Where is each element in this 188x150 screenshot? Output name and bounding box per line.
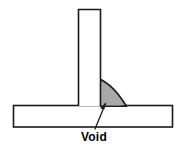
horizontal-plate [14,106,173,128]
vertical-plate [79,10,101,107]
weld-void-diagram: Void [0,0,188,150]
void-label: Void [0,130,188,144]
weld-diagram-svg [0,0,188,150]
